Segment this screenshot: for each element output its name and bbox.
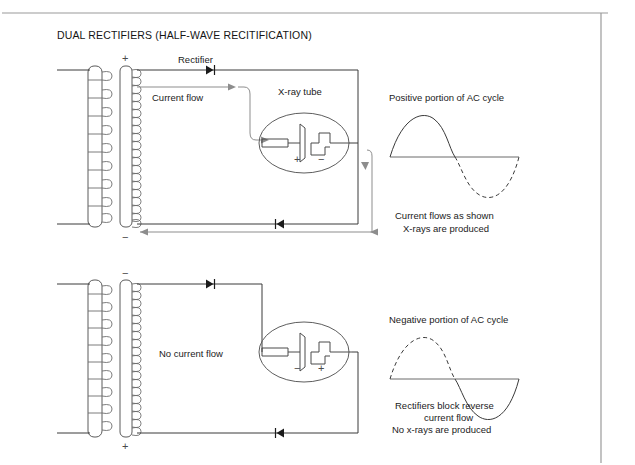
secondary-core-bottom (120, 280, 132, 437)
secondary-coil-top: + − (120, 52, 141, 243)
secondary-bottom-polarity-bottom-circuit: + (122, 440, 128, 452)
page-title: DUAL RECTIFIERS (HALF-WAVE RECITIFICATIO… (57, 29, 312, 41)
waveform-negative-title: Negative portion of AC cycle (389, 314, 508, 325)
diode-triangle-icon (206, 66, 214, 75)
primary-coil-bottom (57, 280, 112, 437)
xray-tube-top: X-ray tube + − (259, 86, 349, 173)
waveform-positive-caption-line-1: Current flows as shown (395, 210, 494, 221)
waveform-positive-solid-half (390, 115, 455, 157)
current-flow-elbow-top (238, 87, 262, 140)
top-circuit: + − Rectifier Current flow X-ray tub (57, 52, 378, 243)
waveform-negative-caption-line-1: Rectifiers block reverse (395, 400, 494, 411)
primary-core-top (88, 66, 102, 227)
secondary-core-top (120, 66, 132, 227)
secondary-bottom-polarity-top-circuit: − (122, 231, 128, 243)
waveform-positive-dashed-half (455, 157, 519, 198)
current-flow-return-arrow-top (140, 150, 378, 236)
diode-triangle-icon (206, 280, 214, 289)
diode-triangle-icon (277, 429, 285, 438)
rectifier-label-top: Rectifier (178, 54, 213, 65)
waveform-positive-title: Positive portion of AC cycle (389, 92, 504, 103)
bottom-circuit: − + No current flow − + (57, 267, 358, 452)
tube-anode-stem-bottom (262, 348, 288, 356)
current-flow-arrowhead-top (228, 84, 236, 91)
tube-anode-target-top (300, 124, 305, 162)
xray-tube-label-top: X-ray tube (278, 86, 322, 97)
xray-tube-bottom: − + (259, 322, 352, 382)
rectifier-diode-bottom-top-circuit (276, 219, 285, 229)
primary-coil-top (57, 66, 112, 227)
current-flow-label-top: Current flow (152, 92, 203, 103)
tube-anode-target-bottom (300, 333, 305, 371)
secondary-turns-bottom (132, 283, 141, 435)
secondary-top-polarity-bottom-circuit: − (122, 267, 128, 279)
rectifier-diode-top-bottom-circuit (206, 279, 215, 289)
waveform-negative-caption-line-3: No x-rays are produced (392, 424, 491, 435)
waveform-negative: Negative portion of AC cycle Rectifiers … (389, 314, 519, 435)
diagram-page: DUAL RECTIFIERS (HALF-WAVE RECITIFICATIO… (0, 0, 635, 465)
current-return-arrowhead-corner-top (370, 229, 378, 236)
waveform-negative-dashed-half (390, 337, 455, 379)
secondary-top-polarity-top-circuit: + (122, 52, 128, 64)
dual-rectifier-diagram: DUAL RECTIFIERS (HALF-WAVE RECITIFICATIO… (0, 0, 635, 465)
rectifier-diode-top (206, 65, 215, 75)
secondary-turns-top (132, 69, 141, 227)
tube-anode-polarity-top: + (294, 153, 300, 165)
current-flow-arrow-top: Current flow (137, 84, 269, 144)
tube-cathode-polarity-top: − (318, 153, 324, 165)
no-current-flow-label: No current flow (159, 348, 223, 359)
top-supply-wire (137, 70, 358, 143)
secondary-coil-bottom: − + (120, 267, 141, 452)
tube-cathode-filament-top (311, 133, 346, 155)
current-return-arrowhead-left-top (140, 229, 148, 236)
tube-anode-polarity-bottom: − (294, 362, 300, 374)
current-return-line-top (140, 150, 372, 232)
tube-cathode-polarity-bottom: + (318, 362, 324, 374)
rectifier-diode-bottom-bottom-circuit (276, 428, 285, 438)
current-return-arrowhead-vertical-top (361, 162, 369, 170)
waveform-negative-caption-line-2: current flow (424, 412, 473, 423)
tube-cathode-filament-bottom (311, 342, 346, 364)
diode-triangle-icon (277, 220, 285, 229)
waveform-positive: Positive portion of AC cycle Current flo… (389, 92, 519, 234)
waveform-positive-caption-line-2: X-rays are produced (403, 223, 489, 234)
top-supply-wire-bottom (137, 284, 262, 352)
